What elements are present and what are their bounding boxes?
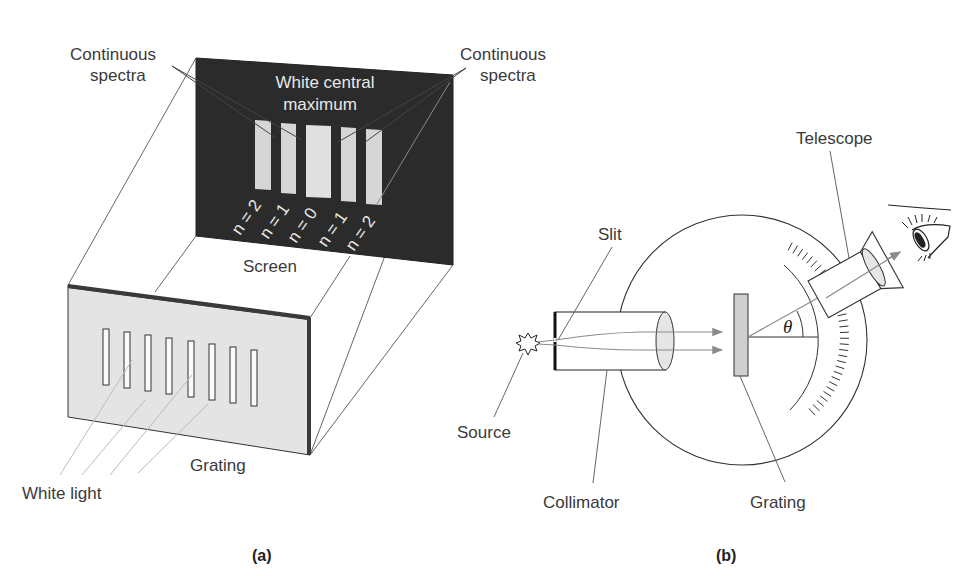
collimator-lens: [656, 312, 674, 370]
screen: White central maximum n = 2 n = 1 n = 0 …: [196, 58, 453, 265]
continuous-spectra-left-2: spectra: [90, 66, 146, 85]
band-n1-right: [341, 127, 356, 202]
screen-label: Screen: [243, 257, 297, 276]
collimator: [555, 312, 674, 370]
central-max-label-1: White central: [275, 73, 374, 92]
telescope-label: Telescope: [796, 129, 873, 148]
figure-canvas: White central maximum n = 2 n = 1 n = 0 …: [0, 0, 970, 576]
grating-b: [734, 294, 748, 376]
source-leader: [494, 353, 523, 417]
eye-icon: [888, 205, 951, 261]
central-max-label-2: maximum: [283, 95, 357, 114]
diffraction-grating-figure: White central maximum n = 2 n = 1 n = 0 …: [0, 0, 970, 576]
theta-label: θ: [783, 316, 792, 337]
source-label: Source: [457, 423, 511, 442]
band-n1-left: [281, 123, 296, 194]
collimator-leader: [593, 370, 607, 483]
caption-a: (a): [252, 547, 272, 564]
source-star-icon: [516, 333, 540, 355]
grating-b-label: Grating: [750, 493, 806, 512]
telescope-leader: [830, 151, 849, 258]
grating-a: [68, 285, 310, 455]
collimator-label: Collimator: [543, 493, 620, 512]
white-light-label: White light: [22, 484, 102, 503]
panel-a: White central maximum n = 2 n = 1 n = 0 …: [22, 45, 546, 564]
continuous-spectra-left-1: Continuous: [70, 45, 156, 64]
band-n0-central: [306, 125, 331, 198]
telescope: [802, 232, 903, 327]
grating-b-leader: [740, 376, 785, 482]
slit-label: Slit: [598, 225, 622, 244]
grating-label-a: Grating: [190, 456, 246, 475]
continuous-spectra-right-1: Continuous: [460, 45, 546, 64]
continuous-spectra-right-2: spectra: [480, 66, 536, 85]
band-n2-left: [255, 120, 271, 190]
caption-b: (b): [716, 547, 736, 564]
panel-b: θ Telescope Slit Source Collimator Grati…: [457, 129, 951, 564]
band-n2-right: [366, 129, 382, 205]
